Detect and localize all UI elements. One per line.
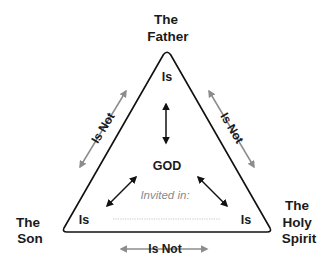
side-label-isnot-right: Is Not (217, 110, 246, 146)
arrow-god-son-icon (107, 177, 136, 206)
invited-in-text: Invited in: (140, 189, 189, 201)
vertex-label-father: The Father (147, 12, 189, 44)
arrow-god-spirit-icon (198, 177, 227, 206)
relation-is-father: Is (162, 70, 172, 84)
relation-is-spirit: Is (241, 213, 251, 227)
trinity-diagram: The Father The Son The Holy Spirit Is Is… (0, 0, 336, 264)
vertex-label-son: The Son (16, 215, 44, 246)
center-label-god: GOD (153, 159, 181, 173)
side-label-isnot-bottom: Is Not (148, 242, 181, 256)
vertex-label-holy-spirit: The Holy Spirit (282, 198, 317, 246)
side-label-isnot-left: Is Not (88, 110, 117, 146)
relation-is-son: Is (79, 213, 89, 227)
